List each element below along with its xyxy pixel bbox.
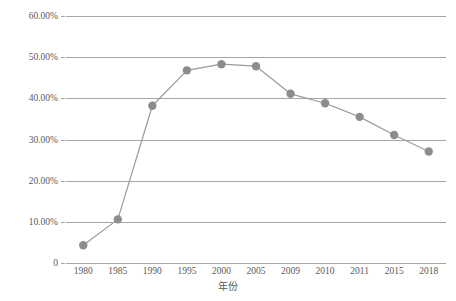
data-point-marker (321, 99, 329, 107)
data-point-marker (252, 62, 260, 70)
line-chart: 60.00%50.00%40.00%30.00%20.00%10.00%0 19… (0, 0, 456, 301)
data-point-marker (183, 66, 191, 74)
data-point-marker (114, 215, 122, 223)
data-point-marker (286, 90, 294, 98)
data-point-marker (425, 147, 433, 155)
series-line (0, 0, 456, 301)
data-point-marker (390, 131, 398, 139)
series-path (83, 64, 428, 245)
data-point-marker (217, 60, 225, 68)
data-point-marker (148, 102, 156, 110)
data-point-marker (355, 113, 363, 121)
data-point-marker (79, 241, 87, 249)
